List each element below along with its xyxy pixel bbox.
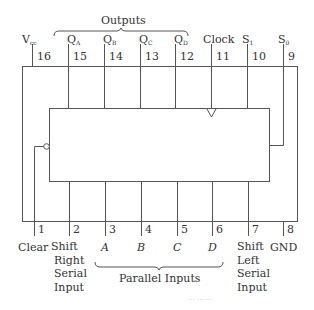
pin15-label: QA: [67, 33, 80, 49]
pin2-number: 2: [73, 224, 80, 236]
logic-block: [50, 109, 270, 182]
clear-inversion-bubble: [44, 144, 50, 150]
pin8-number: 8: [287, 224, 294, 236]
pin10-label: S1: [242, 33, 253, 49]
pin13-number: 13: [145, 51, 159, 63]
pin15-number: 15: [73, 51, 87, 63]
pin1-label: Clear: [18, 241, 48, 254]
pin3-number: 3: [109, 224, 116, 236]
pin10-number: 10: [252, 51, 266, 63]
pin7-label: Shift Left Serial Input: [237, 240, 270, 294]
pin16-number: 16: [37, 51, 51, 63]
pin5-number: 5: [181, 224, 188, 236]
pin16-label: Vcc: [22, 33, 37, 49]
pin14-label: QB: [103, 33, 116, 49]
pin5-label: C: [173, 241, 181, 254]
pin6-number: 6: [216, 224, 223, 236]
pin4-number: 4: [145, 224, 152, 236]
pin9-number: 9: [288, 51, 295, 63]
pin11-label: Clock: [203, 33, 234, 46]
outputs-group-label: Outputs: [101, 14, 146, 27]
pin1-number: 1: [38, 224, 45, 236]
pin6-label: D: [208, 241, 217, 254]
parallel-inputs-group-label: Parallel Inputs: [119, 272, 200, 285]
pin12-number: 12: [180, 51, 194, 63]
faint-caption: ··· ··· ···: [188, 296, 212, 304]
package-outline: [23, 67, 298, 222]
pin8-label: GND: [270, 241, 297, 254]
pin7-number: 7: [252, 224, 259, 236]
pin12-label: QD: [174, 33, 188, 49]
pin2-label: Shift Right Serial Input: [51, 240, 87, 294]
pin3-label: A: [101, 241, 109, 254]
pin13-label: QC: [139, 33, 153, 49]
pin11-number: 11: [216, 51, 230, 63]
pin4-label: B: [137, 241, 145, 254]
pin9-label: S0: [278, 33, 289, 49]
pin14-number: 14: [109, 51, 123, 63]
